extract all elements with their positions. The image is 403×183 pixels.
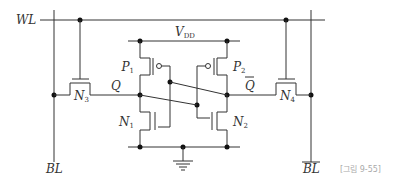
figure-caption: [그림 9-55] [340, 164, 381, 174]
cross-wire-2 [140, 95, 197, 105]
q-bar-label: Q [245, 77, 255, 93]
svg-text:P2: P2 [232, 60, 246, 75]
svg-text:P1: P1 [120, 60, 134, 75]
wl-label: WL [16, 13, 36, 27]
ground-rail [128, 145, 240, 162]
svg-text:VDD: VDD [175, 25, 195, 40]
bl-bar-label: BL [302, 162, 320, 176]
svg-text:Q: Q [245, 79, 255, 93]
transistor-p2: P2 [197, 41, 246, 118]
svg-text:N2: N2 [232, 115, 248, 130]
q-label: Q [111, 79, 121, 93]
bit-line-bar: BL [302, 10, 320, 176]
cross-wire-1 [170, 82, 227, 95]
transistor-n1: N1 [118, 95, 155, 147]
bit-line: BL [45, 10, 63, 176]
bl-label: BL [45, 162, 63, 176]
vdd-rail: VDD [128, 25, 240, 44]
svg-text:N1: N1 [118, 115, 134, 130]
svg-text:N3: N3 [73, 89, 89, 104]
svg-text:N4: N4 [279, 89, 296, 104]
sram-cell-diagram: WL BL BL N3 Q N4 Q VDD [0, 0, 403, 183]
word-line: WL [16, 13, 325, 27]
ground-icon [173, 161, 193, 170]
transistor-n2: N2 [212, 95, 248, 147]
